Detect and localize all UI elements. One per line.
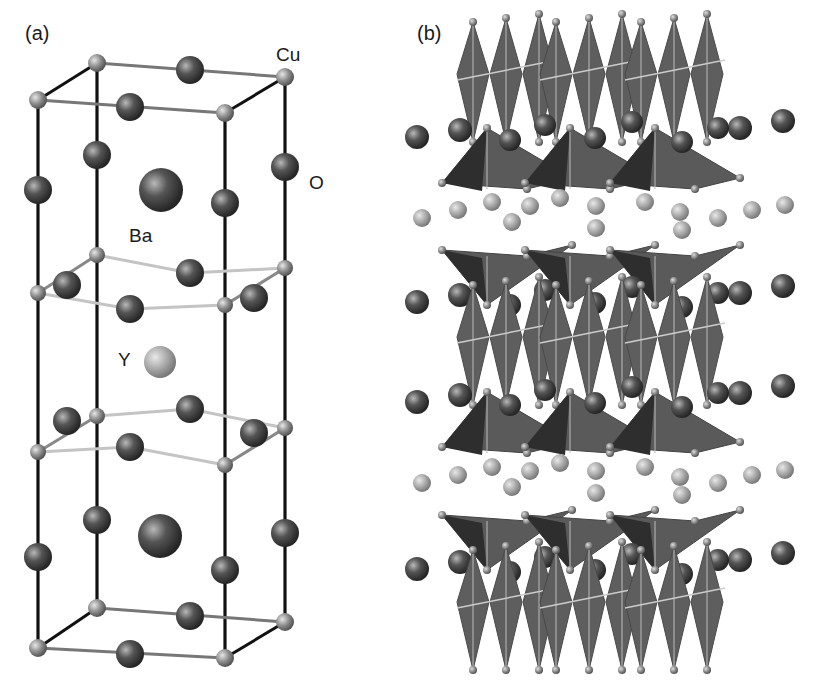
- y-label: Y: [118, 349, 131, 371]
- cu-label: Cu: [276, 44, 300, 66]
- ba-label: Ba: [129, 225, 152, 247]
- top-face: [38, 63, 285, 113]
- bottom-face: [38, 608, 285, 658]
- panel-b-polyhedral-structure: (b): [400, 0, 821, 697]
- o-label: O: [309, 172, 324, 194]
- unit-cell-diagram: [0, 0, 400, 697]
- panel-b-label: (b): [417, 22, 441, 45]
- panel-a-unit-cell: (a) Cu O Ba Y: [0, 0, 400, 697]
- panel-a-label: (a): [25, 22, 49, 45]
- y-atom: [144, 346, 176, 378]
- polyhedral-structure-diagram: [400, 0, 821, 697]
